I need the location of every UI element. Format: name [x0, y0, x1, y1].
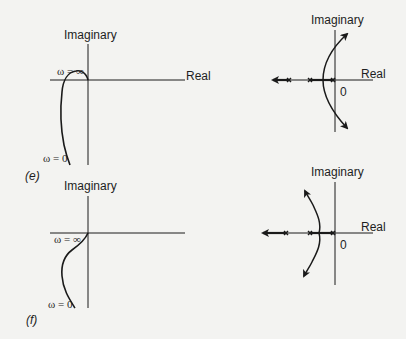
omega-zero-label-e: ω = 0 [43, 153, 67, 164]
omega-zero-label-f: ω = 0 [48, 299, 72, 310]
nyquist-imag-label-e: Imaginary [64, 29, 117, 41]
root-locus-f [263, 182, 373, 285]
panel-label-e: (e) [25, 170, 40, 182]
rl-origin-label-e: 0 [340, 86, 347, 98]
nyquist-real-label-e: Real [186, 70, 211, 82]
rl-imag-label-e: Imaginary [311, 14, 364, 26]
nyquist-plot-e [50, 44, 185, 165]
rl-origin-label-f: 0 [340, 239, 347, 251]
rl-real-label-f: Real [361, 221, 386, 233]
omega-infinity-label-e: ω = ∞ [57, 66, 84, 77]
nyquist-imag-label-f: Imaginary [64, 180, 117, 192]
rl-imag-label-f: Imaginary [311, 166, 364, 178]
rl-branch-lower-f [304, 233, 320, 276]
rl-branch-upper-f [305, 191, 320, 233]
rl-real-label-e: Real [361, 68, 386, 80]
root-locus-e [273, 30, 373, 132]
figure-canvas: Imaginary Real ω = ∞ ω = 0 (e) Imaginary… [0, 0, 406, 339]
omega-infinity-label-f: ω = ∞ [54, 234, 81, 245]
panel-label-f: (f) [26, 314, 37, 326]
nyquist-plot-f [50, 196, 185, 308]
nyquist-curve-e [61, 71, 88, 165]
